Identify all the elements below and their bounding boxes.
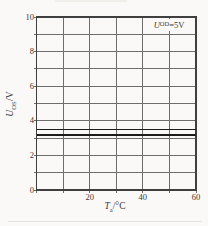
y-tick-label: 4	[8, 116, 34, 125]
y-tick-label: 0	[8, 186, 34, 195]
annotation-value: =5V	[169, 20, 184, 30]
y-tick-label: 6	[8, 82, 34, 91]
x-tick-label: 60	[192, 193, 201, 202]
scan-artifact-smudge	[55, 0, 127, 2]
y-tick-label: 10	[8, 13, 34, 22]
x-axis-unit: /°C	[113, 201, 126, 211]
x-axis-label: Ta/°C	[105, 201, 126, 213]
x-tick-label: 20	[85, 193, 94, 202]
y-tick-label: 8	[8, 47, 34, 56]
y-axis-subscript: OS	[10, 101, 17, 110]
chart-figure: UOS/V Ta/°C UOD=5V 2040600246810	[0, 0, 208, 226]
y-axis-label: UOS/V	[5, 91, 17, 117]
scan-artifact-line	[8, 221, 202, 222]
y-tick-label: 2	[8, 151, 34, 160]
annotation-supply-condition: UOD=5V	[144, 19, 194, 31]
y-axis-unit: /V	[5, 91, 15, 101]
x-tick-label: 40	[139, 193, 148, 202]
annotation-subscript: OD	[160, 21, 169, 28]
